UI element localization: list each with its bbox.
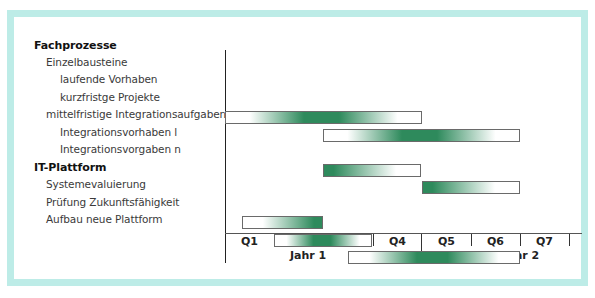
task-label: Aufbau neue Plattform: [46, 213, 163, 225]
gantt-bar: [274, 234, 372, 247]
gantt-bar: [348, 251, 520, 264]
task-label: mittelfristige Integrationsaufgaben: [46, 108, 226, 120]
quarter-label: Q1: [225, 235, 274, 248]
task-label: Integrationsvorhaben l: [60, 126, 177, 138]
task-label: Einzelbausteine: [46, 56, 127, 68]
gantt-bar: [323, 129, 520, 142]
quarter-label: Q7: [520, 235, 569, 248]
quarter-tick: [569, 234, 570, 246]
task-label: Integrationsvorgaben n: [60, 143, 181, 155]
y-axis-line: [225, 50, 226, 263]
gantt-bar: [323, 164, 421, 177]
gantt-bar: [422, 181, 520, 194]
task-label: Prüfung Zukunftsfähigkeit: [46, 196, 179, 208]
section-heading: Fachprozesse: [34, 39, 117, 52]
year-label-1: Jahr 1: [290, 249, 326, 262]
gantt-bar: [242, 216, 323, 229]
task-label: kurzfristge Projekte: [60, 91, 160, 103]
quarter-label: Q5: [422, 235, 471, 248]
task-label: laufende Vorhaben: [60, 73, 157, 85]
section-heading: IT-Plattform: [34, 161, 106, 174]
task-label: Systemevaluierung: [46, 178, 146, 190]
quarter-label: Q6: [471, 235, 520, 248]
gantt-bar: [225, 111, 422, 124]
quarter-label: Q4: [373, 235, 422, 248]
